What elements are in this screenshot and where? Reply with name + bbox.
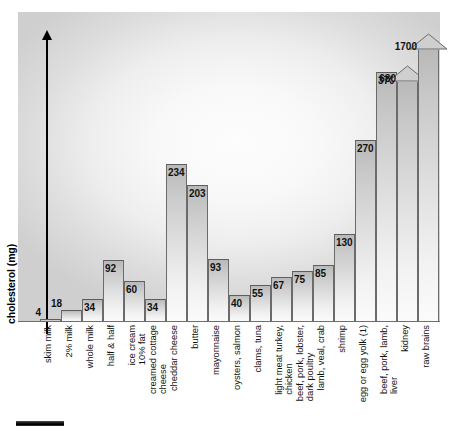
bar-value-label: 18 [42,298,62,309]
bar-10: 40 [229,295,250,322]
x-axis-baseline [18,321,440,322]
category-label: creamed cottage cheese [148,325,169,394]
bar-19: 1700 [418,50,439,322]
category-label: whole milk [85,325,95,368]
category-label: clams, tuna [253,325,263,372]
bar-value-label: 93 [210,262,221,273]
bar-value-label: 40 [231,298,242,309]
category-label: raw brains [421,325,431,368]
category-label: cheddar cheese [169,325,179,391]
bar-15: 130 [334,234,355,322]
bar-14: 85 [313,265,334,322]
category-label: kidney [400,325,410,352]
bar-18: 680 [397,82,418,322]
bar-value-label: 130 [336,237,353,248]
bar-17: 370 [376,72,397,322]
bar-value-label: 4 [21,307,41,318]
bar-7: 234 [166,164,187,322]
bar-4: 92 [103,260,124,322]
bar-value-label: 34 [84,302,95,313]
bar-value-label: 85 [315,268,326,279]
y-axis-title: cholesterol (mg) [5,204,17,324]
bar-3: 34 [82,299,103,322]
chart-plot-area: 4183492603423420393405567758513027037068… [18,12,440,322]
bar-value-label: 67 [273,280,284,291]
category-label: shrimp [337,325,347,353]
bar-16: 270 [355,140,376,322]
y-axis-arrow-icon [42,30,52,334]
bar-6: 34 [145,299,166,322]
bar-value-label: 92 [105,263,116,274]
bar-9: 93 [208,259,229,322]
category-label: oysters, salmon [232,325,242,390]
category-label: butter [190,325,200,349]
category-label: skim milk [43,325,53,363]
bar-5: 60 [124,281,145,322]
bar-11: 55 [250,285,271,322]
bar-value-label: 60 [126,284,137,295]
category-label: 2% milk [64,325,74,357]
category-label: half & half [106,325,116,366]
y-axis-shaft [46,38,48,334]
bar-value-label: 1700 [391,41,417,52]
bar-value-label: 680 [370,73,396,84]
bar-8: 203 [187,185,208,322]
scale-bar [16,421,64,426]
bar-value-label: 203 [189,188,206,199]
category-label: egg or egg yolk (1) [358,325,368,402]
category-label: lamb, veal, crab [316,325,326,390]
bar-value-label: 34 [147,302,158,313]
bar-value-label: 234 [168,167,185,178]
category-label: ice cream 10% fat [127,325,148,365]
bar-value-label: 75 [294,274,305,285]
bar-13: 75 [292,271,313,322]
category-label: beef, pork, lobster, dark poultry [295,325,316,401]
category-label: light meat turkey, chicken [274,325,295,395]
category-label: beef, pork, lamb, liver [379,325,400,394]
category-label: mayonnaise [211,325,221,375]
bar-12: 67 [271,277,292,322]
bar-value-label: 55 [252,288,263,299]
bar-value-label: 270 [357,143,374,154]
